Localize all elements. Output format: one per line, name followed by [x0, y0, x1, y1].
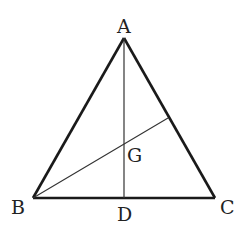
triangle-diagram: A B C D G	[0, 0, 241, 235]
label-d: D	[117, 203, 132, 225]
label-c: C	[220, 196, 235, 218]
side-ab	[33, 38, 124, 198]
label-g: G	[127, 144, 142, 166]
side-ac	[124, 38, 215, 198]
label-a: A	[116, 15, 131, 37]
median-be	[33, 118, 168, 198]
label-b: B	[11, 196, 25, 218]
